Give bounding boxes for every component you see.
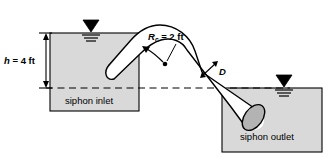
free-surface-triangle-outlet (276, 75, 292, 87)
siphon-diagram-canvas: h = 4 ft Rc = 2 ft D siphon inlet siphon… (0, 0, 330, 157)
free-surface-symbol-inlet (82, 20, 100, 41)
free-surface-symbol-outlet (275, 75, 293, 96)
siphon-diagram: h = 4 ft Rc = 2 ft D siphon inlet siphon… (0, 0, 330, 157)
bend-center-dot (163, 62, 168, 67)
inlet-tank-label: siphon inlet (65, 95, 113, 106)
radius-label-value: = 2 ft (159, 31, 185, 42)
diameter-dimension-line (202, 63, 216, 76)
outlet-tank-label: siphon outlet (240, 131, 294, 142)
head-label: h = 4 ft (4, 55, 36, 66)
radius-label-leader (167, 44, 176, 61)
head-arrowhead-down (43, 81, 49, 88)
head-label-value: = 4 ft (10, 55, 36, 66)
free-surface-triangle-inlet (83, 20, 99, 32)
diameter-label: D (219, 66, 226, 77)
radius-callout (142, 44, 176, 66)
head-arrowhead-up (43, 33, 49, 40)
radius-leader-line (147, 49, 163, 62)
radius-label: Rc = 2 ft (148, 31, 184, 43)
